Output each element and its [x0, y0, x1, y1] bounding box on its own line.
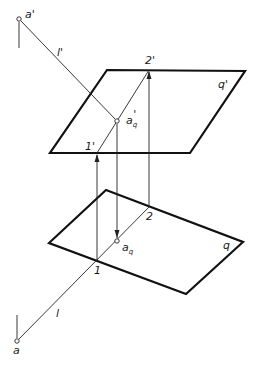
- label-l-prime: l': [57, 46, 63, 59]
- trace-1prime-2prime: [97, 70, 149, 153]
- label-1-prime: 1': [85, 140, 95, 153]
- label-2: 2: [146, 210, 153, 223]
- label-2-prime: 2': [145, 54, 155, 67]
- arrow-down-icon: [115, 230, 120, 238]
- label-1: 1: [94, 264, 101, 277]
- label-q: q: [223, 239, 230, 252]
- point-a-prime: [17, 17, 21, 21]
- label-a: a: [13, 344, 20, 357]
- label-a-prime: a': [25, 8, 35, 21]
- projection-diagram: a' l' 2' q' aq' 1' 2 aq q 1 l a: [0, 0, 256, 367]
- label-a-q: aq: [122, 241, 134, 256]
- point-a-q-prime: [115, 119, 119, 123]
- label-l: l: [56, 307, 59, 320]
- arrow-up-icon: [95, 154, 100, 162]
- line-l-prime: [21, 21, 115, 119]
- point-a: [15, 339, 19, 343]
- point-a-q: [115, 239, 119, 243]
- plane-q-prime: [50, 70, 245, 153]
- label-a-q-prime: aq': [126, 108, 138, 129]
- label-q-prime: q': [218, 78, 228, 91]
